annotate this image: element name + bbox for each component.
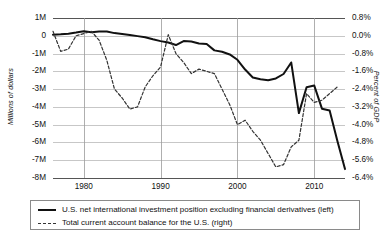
legend-line-solid-icon: [37, 205, 57, 215]
gridlines: [53, 18, 345, 179]
legend-item: Total current account balance for the U.…: [37, 217, 359, 229]
series-line-dashed: [53, 31, 337, 167]
data-series: [53, 31, 345, 169]
legend-line-dashed-icon: [37, 218, 57, 228]
chart-container: Millions of dollars Percent of GDP 1M0-1…: [0, 0, 390, 238]
chart-legend: U.S. net international investment positi…: [30, 200, 360, 230]
series-line-solid: [53, 31, 345, 169]
legend-item-label: U.S. net international investment positi…: [62, 205, 334, 215]
legend-item: U.S. net international investment positi…: [37, 204, 359, 216]
legend-item-label: Total current account balance for the U.…: [62, 218, 232, 228]
